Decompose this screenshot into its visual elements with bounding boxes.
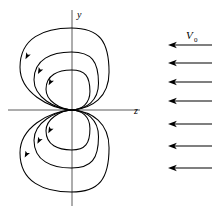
uniform-flow-label-group: V 0 [186, 29, 198, 44]
lower-loop-outer [20, 110, 109, 192]
streamline-arrowhead [46, 126, 54, 134]
upper-loop-inner [46, 70, 90, 110]
streamline-arrowhead [22, 151, 30, 159]
streamline-arrowhead [35, 137, 43, 145]
uniform-flow-arrows-group [168, 42, 212, 171]
uniform-flow-label-subscript: 0 [194, 36, 198, 44]
z-axis-label: z [133, 105, 138, 116]
lower-loop-inner [46, 110, 90, 150]
streamline-arrowhead [23, 52, 31, 60]
uniform-flow-label: V [186, 29, 194, 41]
upper-loop-outer [20, 28, 109, 110]
dipole-streamline-figure: y z V 0 [0, 0, 220, 213]
y-axis-label: y [76, 9, 82, 20]
streamline-direction-arrows [22, 52, 53, 159]
figure-canvas: y z V 0 [0, 0, 220, 213]
